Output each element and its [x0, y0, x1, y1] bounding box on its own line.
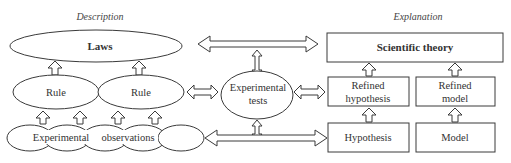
- double-arrow-icon: [198, 36, 318, 52]
- explanation-header: Explanation: [393, 11, 443, 22]
- experimental-tests-line2: tests: [249, 95, 268, 106]
- up-arrow-icon: [448, 108, 462, 122]
- up-arrow-icon: [48, 61, 62, 75]
- experimental-tests-line1: Experimental: [230, 82, 287, 93]
- rule-node-1: Rule: [13, 75, 99, 109]
- double-arrow-icon: [294, 85, 325, 99]
- model-label: Model: [441, 132, 468, 143]
- rule-label-1: Rule: [46, 87, 66, 98]
- up-arrow-icon: [148, 111, 162, 124]
- refined-model-line1: Refined: [438, 80, 472, 91]
- refined-hypothesis-node: Refined hypothesis: [328, 77, 409, 106]
- double-arrow-icon: [187, 85, 218, 99]
- up-arrow-icon: [111, 111, 125, 124]
- scientific-theory-node: Scientific theory: [327, 33, 503, 62]
- observations-label-2: observations: [101, 132, 154, 143]
- refined-model-node: Refined model: [416, 77, 495, 106]
- up-arrow-icon: [448, 63, 462, 76]
- laws-label: Laws: [87, 40, 113, 52]
- laws-node: Laws: [10, 30, 182, 62]
- refined-hypothesis-line1: Refined: [351, 80, 385, 91]
- scientific-theory-label: Scientific theory: [377, 41, 454, 53]
- description-header: Description: [75, 11, 123, 22]
- refined-model-line2: model: [442, 93, 468, 104]
- up-arrow-icon: [362, 108, 376, 122]
- refined-hypothesis-line2: hypothesis: [346, 93, 391, 104]
- double-arrow-icon: [205, 130, 327, 146]
- hypothesis-node: Hypothesis: [328, 123, 409, 152]
- rule-label-2: Rule: [131, 87, 151, 98]
- observations-label-1: Experimental: [33, 132, 90, 143]
- rule-node-2: Rule: [98, 75, 184, 109]
- model-node: Model: [416, 123, 495, 152]
- observations-node: Experimental observations: [7, 125, 204, 151]
- up-arrow-icon: [73, 111, 87, 124]
- hypothesis-label: Hypothesis: [344, 132, 391, 143]
- up-arrow-icon: [36, 111, 50, 124]
- science-method-diagram: Description Explanation Laws Rule Rule: [0, 0, 511, 163]
- up-arrow-icon: [362, 63, 376, 76]
- up-arrow-icon: [132, 61, 146, 75]
- experimental-tests-node: Experimental tests: [221, 71, 293, 119]
